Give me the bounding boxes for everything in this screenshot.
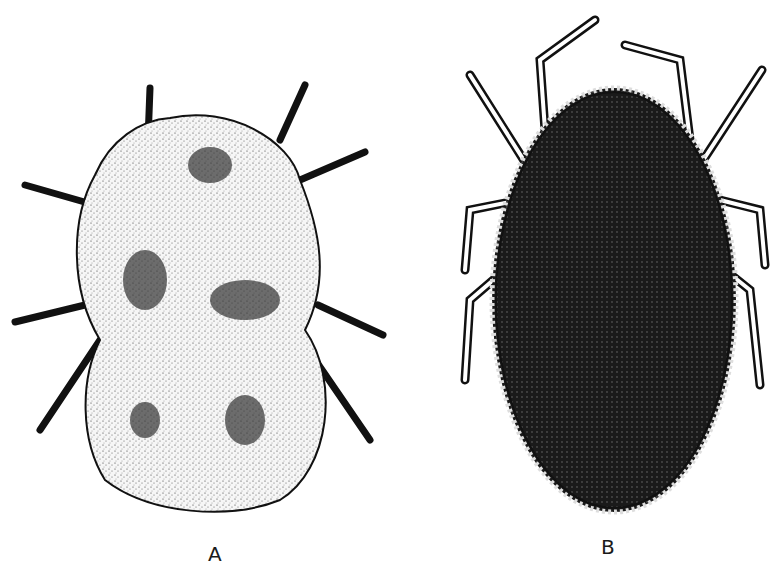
specimen-a bbox=[15, 85, 383, 512]
body-b bbox=[492, 88, 736, 512]
panel-label-b: B bbox=[601, 535, 615, 559]
illustration bbox=[0, 0, 780, 569]
specimen-b bbox=[465, 20, 765, 512]
figure: A B bbox=[0, 0, 780, 569]
panel-label-a: A bbox=[208, 542, 222, 566]
